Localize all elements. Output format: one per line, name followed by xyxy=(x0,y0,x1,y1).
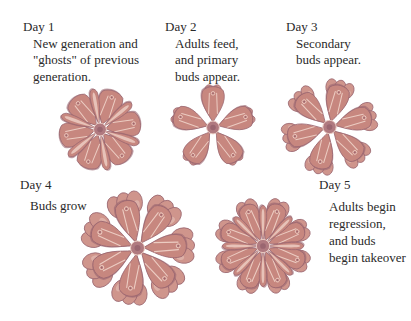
colony-illustration-day-3 xyxy=(272,77,387,177)
stage-description: Adults begin regression, and buds begin … xyxy=(319,198,406,266)
day-heading: Day 5 xyxy=(319,177,406,194)
cloacal-opening xyxy=(97,127,102,132)
stage-label-day-5: Day 5 Adults begin regression, and buds … xyxy=(319,177,406,266)
zooid-siphon-dot xyxy=(212,93,214,95)
stage-label-day-3: Day 3 Secondary buds appear. xyxy=(286,19,361,69)
description-line: regression, xyxy=(329,215,406,232)
cloacal-opening xyxy=(135,245,141,251)
stage-label-day-2: Day 2 Adults feed, and primary buds appe… xyxy=(165,19,240,85)
day-heading: Day 3 xyxy=(286,19,361,36)
adult-zooid xyxy=(201,86,225,123)
description-line: Adults begin xyxy=(329,198,406,215)
description-line: and buds xyxy=(329,232,406,249)
day-heading: Day 2 xyxy=(165,19,240,36)
day-heading: Day 1 xyxy=(23,19,139,36)
colony-illustration-day-1 xyxy=(45,82,155,177)
description-line: Secondary xyxy=(296,36,361,53)
stage-description: Secondary buds appear. xyxy=(286,36,361,69)
description-line: New generation and xyxy=(33,36,139,53)
description-line: buds appear. xyxy=(296,52,361,69)
description-line: and primary xyxy=(175,52,240,69)
stage-description: New generation and "ghosts" of previous … xyxy=(23,36,139,86)
cloacal-opening xyxy=(210,125,215,130)
cloacal-opening xyxy=(260,243,266,249)
cloacal-opening xyxy=(327,124,333,130)
colony-illustration-day-4 xyxy=(75,192,200,304)
colony-illustration-day-2 xyxy=(158,80,268,175)
stage-description: Adults feed, and primary buds appear. xyxy=(165,36,240,86)
colony-illustration-day-5 xyxy=(208,196,318,296)
description-line: Adults feed, xyxy=(175,36,240,53)
stage-label-day-1: Day 1 New generation and "ghosts" of pre… xyxy=(23,19,139,85)
description-line: "ghosts" of previous xyxy=(33,52,139,69)
description-line: begin takeover xyxy=(329,249,406,266)
